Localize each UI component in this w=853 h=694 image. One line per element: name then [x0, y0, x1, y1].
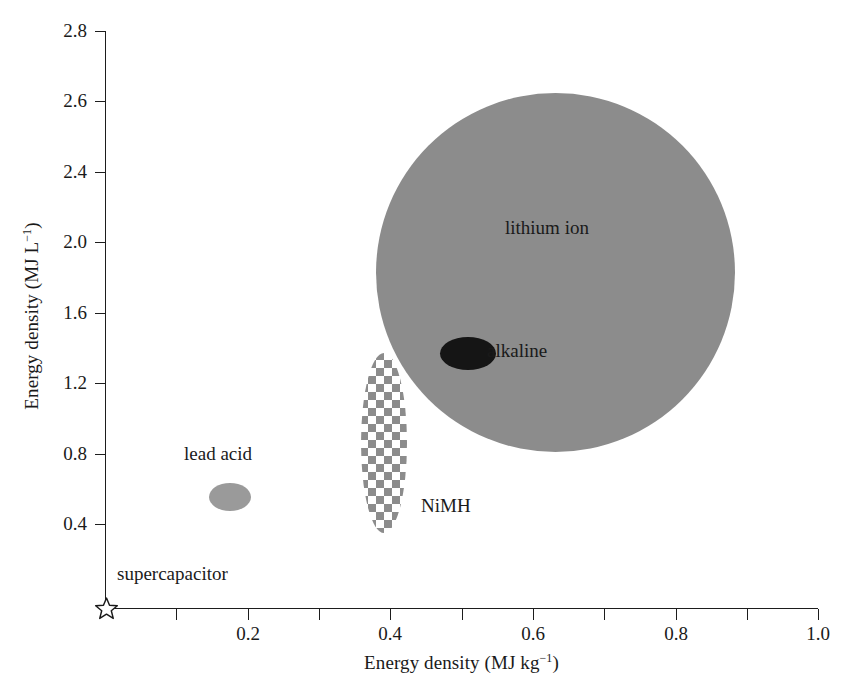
x-axis-title-exponent: −1 [539, 651, 552, 665]
marker-lead-acid [209, 483, 251, 511]
y-axis-title: Energy density (MJ L−1) [21, 136, 43, 496]
y-tick-label-6: 0.8 [41, 443, 87, 465]
marker-label-alkaline: alkaline [487, 340, 547, 362]
x-axis-title-tail: ) [552, 652, 558, 673]
y-axis-title-exponent: −1 [20, 229, 34, 242]
y-axis-line [105, 31, 106, 609]
y-tick-label-7: 0.4 [41, 513, 87, 535]
marker-lithium-ion [376, 93, 735, 452]
x-tick-minor-4 [747, 609, 748, 620]
y-tick-label-3: 2.0 [41, 231, 87, 253]
x-tick-minor-3 [604, 609, 605, 620]
y-tick-5 [95, 383, 106, 384]
x-tick-label-1: 0.4 [363, 623, 417, 645]
y-tick-0 [95, 31, 106, 32]
marker-label-supercapacitor: supercapacitor [117, 563, 228, 585]
y-tick-label-2: 2.4 [41, 161, 87, 183]
y-axis-title-text: Energy density (MJ L [21, 242, 42, 410]
x-tick-major-0 [248, 609, 249, 620]
y-tick-label-0: 2.8 [41, 20, 87, 42]
marker-label-lead-acid: lead acid [184, 443, 252, 465]
marker-label-lithium-ion: lithium ion [505, 217, 589, 239]
x-tick-major-3 [676, 609, 677, 620]
y-tick-1 [95, 101, 106, 102]
y-tick-label-4: 1.6 [41, 302, 87, 324]
marker-nimh [360, 352, 408, 534]
y-tick-label-1: 2.6 [41, 90, 87, 112]
x-tick-major-1 [390, 609, 391, 620]
y-tick-label-5: 1.2 [41, 372, 87, 394]
x-axis-title-text: Energy density (MJ kg [364, 652, 539, 673]
x-axis-title: Energy density (MJ kg−1) [105, 652, 818, 674]
x-tick-minor-0 [176, 609, 177, 620]
x-tick-minor-1 [319, 609, 320, 620]
y-axis-title-tail: ) [21, 222, 42, 228]
x-tick-major-4 [818, 609, 819, 620]
y-tick-6 [95, 454, 106, 455]
y-tick-2 [95, 172, 106, 173]
x-tick-label-2: 0.6 [506, 623, 560, 645]
chart-figure: 2.8 2.6 2.4 2.0 1.6 1.2 0.8 0.4 0.2 0.4 … [0, 0, 853, 694]
y-tick-3 [95, 242, 106, 243]
x-tick-label-3: 0.8 [649, 623, 703, 645]
marker-label-nimh: NiMH [421, 495, 471, 517]
y-tick-4 [95, 313, 106, 314]
x-tick-label-4: 1.0 [791, 623, 845, 645]
x-tick-label-0: 0.2 [221, 623, 275, 645]
y-tick-7 [95, 524, 106, 525]
x-tick-major-2 [533, 609, 534, 620]
x-tick-minor-2 [462, 609, 463, 620]
marker-supercapacitor-star-icon [94, 596, 119, 621]
